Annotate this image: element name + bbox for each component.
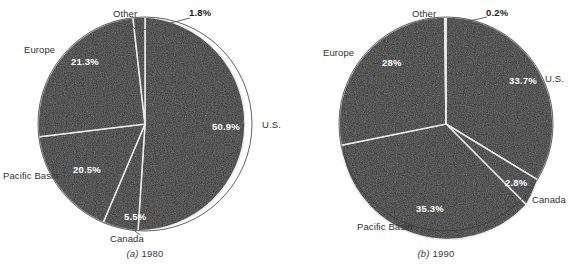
caption-label-1990: (b): [418, 248, 430, 259]
value-pacific-basin-1980: 20.5%: [73, 164, 101, 175]
value-other-1990: 0.2%: [486, 7, 508, 18]
label-europe-1980: Europe: [24, 44, 55, 55]
label-other-1980: Other: [113, 8, 137, 19]
slice-europe-1980: [38, 18, 145, 137]
pie-svg-1980: [0, 0, 290, 247]
label-pacific-basin-1990: Pacific Basin: [357, 221, 413, 232]
value-europe-1990: 28%: [382, 57, 402, 68]
label-us-1990: U.S.: [545, 73, 564, 84]
pie-1980: Other Europe Pacific Basin Canada U.S. 1…: [0, 0, 290, 247]
slice-europe-1990: [339, 17, 446, 145]
value-canada-1980: 5.5%: [124, 211, 146, 222]
pie-1990: Other Europe Pacific Basin Canada U.S. 0…: [291, 0, 581, 247]
label-canada-1990: Canada: [532, 194, 566, 205]
pie-chart-figure: Other Europe Pacific Basin Canada U.S. 1…: [0, 0, 581, 277]
value-us-1980: 50.9%: [212, 121, 240, 132]
caption-year-1990: 1990: [433, 248, 455, 259]
value-canada-1990: 2.8%: [505, 177, 527, 188]
caption-1980: (a) 1980: [0, 248, 290, 259]
panel-1990: Other Europe Pacific Basin Canada U.S. 0…: [291, 0, 581, 277]
value-us-1990: 33.7%: [509, 75, 537, 86]
caption-label-1980: (a): [127, 248, 139, 259]
value-pacific-basin-1990: 35.3%: [416, 203, 444, 214]
label-europe-1990: Europe: [323, 47, 354, 58]
value-other-1980: 1.8%: [189, 7, 211, 18]
caption-year-1980: 1980: [142, 248, 164, 259]
label-pacific-basin-1980: Pacific Basin: [3, 170, 59, 181]
label-other-1990: Other: [412, 8, 436, 19]
label-canada-1980: Canada: [110, 233, 144, 244]
value-europe-1980: 21.3%: [71, 56, 99, 67]
label-us-1980: U.S.: [262, 119, 281, 130]
panel-1980: Other Europe Pacific Basin Canada U.S. 1…: [0, 0, 290, 277]
caption-1990: (b) 1990: [291, 248, 581, 259]
